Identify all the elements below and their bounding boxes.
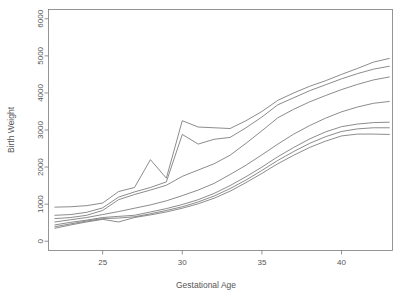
y-tick-label: 6000 [36,9,45,27]
y-tick-label: 3000 [36,121,45,139]
y-axis-title: Birth Weight [6,106,16,153]
x-tick-label: 40 [337,258,346,267]
chart-background [0,0,414,299]
x-tick-label: 25 [98,258,107,267]
chart-figure: 0100020003000400050006000 25303540 Gesta… [0,0,414,299]
y-tick-label: 5000 [36,46,45,64]
y-tick-label: 0 [36,238,45,243]
y-tick-label: 4000 [36,83,45,101]
x-axis-title: Gestational Age [176,280,236,290]
y-tick-label: 2000 [36,158,45,176]
x-tick-label: 30 [178,258,187,267]
y-tick-label: 1000 [36,195,45,213]
birth-weight-gestational-age-chart: 0100020003000400050006000 25303540 Gesta… [0,0,414,299]
x-tick-label: 35 [257,258,266,267]
